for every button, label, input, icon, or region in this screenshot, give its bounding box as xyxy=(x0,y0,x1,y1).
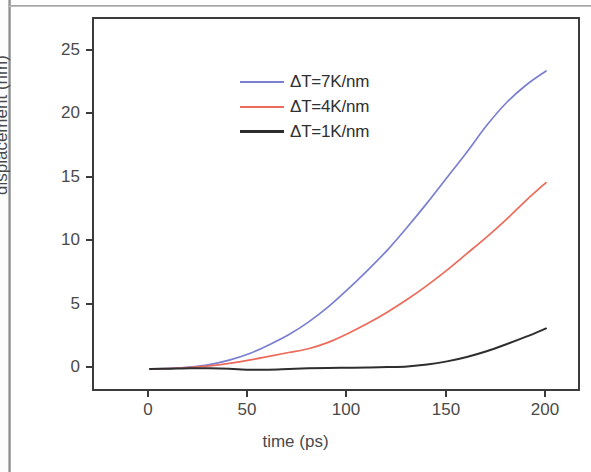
x-tick-label-50: 50 xyxy=(238,400,257,420)
x-tick-label-100: 100 xyxy=(332,400,360,420)
x-tick-label-0: 0 xyxy=(143,400,152,420)
x-tick-label-150: 150 xyxy=(432,400,460,420)
legend-swatch-line-0 xyxy=(240,81,284,83)
plot-frame: ΔT=7K/nm ΔT=4K/nm ΔT=1K/nm xyxy=(92,17,580,391)
legend-entry-0: ΔT=7K/nm xyxy=(240,69,369,94)
legend-swatch-line-1 xyxy=(240,106,284,108)
x-axis-label: time (ps) xyxy=(0,432,591,452)
curve-ΔT=1K/nm xyxy=(150,328,546,369)
y-tick-label-0: 0 xyxy=(40,357,80,377)
y-tick-label-20: 20 xyxy=(40,103,80,123)
y-tick-label-10: 10 xyxy=(40,230,80,250)
legend-label-1: ΔT=4K/nm xyxy=(290,97,369,117)
y-tick-label-15: 15 xyxy=(40,167,80,187)
y-tick-label-25: 25 xyxy=(40,40,80,60)
legend-label-2: ΔT=1K/nm xyxy=(290,122,369,142)
curve-ΔT=4K/nm xyxy=(150,183,546,369)
legend-entry-2: ΔT=1K/nm xyxy=(240,119,369,144)
x-tick-label-200: 200 xyxy=(531,400,559,420)
figure-page: displacement (nm) 25 20 15 10 5 0 0 50 1… xyxy=(0,0,591,472)
legend-label-0: ΔT=7K/nm xyxy=(290,72,369,92)
legend-swatch-line-2 xyxy=(240,130,284,133)
legend-entry-1: ΔT=4K/nm xyxy=(240,94,369,119)
y-tick-label-5: 5 xyxy=(40,294,80,314)
y-axis-label: displacement (nm) xyxy=(0,55,12,195)
legend: ΔT=7K/nm ΔT=4K/nm ΔT=1K/nm xyxy=(240,69,369,144)
